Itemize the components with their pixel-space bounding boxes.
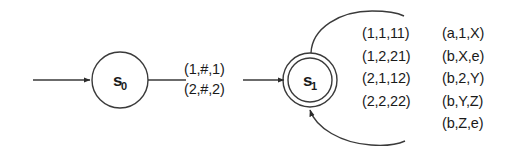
- self-loop-right-line: (b,Y,Z): [442, 90, 522, 113]
- state-label-s0-subscript: 0: [121, 80, 127, 92]
- transition-label: (1,#,1) (2,#,2): [184, 59, 225, 99]
- self-loop-label-block: (1,1,11) (1,2,21) (2,1,12) (2,2,22) (a,1…: [362, 22, 522, 135]
- self-loop-left-line: (1,1,11): [362, 22, 442, 45]
- self-loop-right-line: (b,Z,e): [442, 112, 522, 135]
- self-loop-left-line: (2,1,12): [362, 67, 442, 90]
- self-loop-right-line: (b,X,e): [442, 45, 522, 68]
- self-loop-right-line: (b,2,Y): [442, 67, 522, 90]
- state-label-s1-subscript: 1: [311, 80, 317, 92]
- self-loop-right-column: (a,1,X) (b,X,e) (b,2,Y) (b,Y,Z) (b,Z,e): [442, 22, 522, 135]
- self-loop-left-column: (1,1,11) (1,2,21) (2,1,12) (2,2,22): [362, 22, 442, 135]
- transition-label-line-2: (2,#,2): [184, 79, 225, 99]
- diagram-canvas: s 0 s 1 (1,#,1) (2,#,2) (1,1,11) (1,2,21…: [0, 0, 525, 159]
- transition-label-line-1: (1,#,1): [184, 59, 225, 79]
- self-loop-left-line: (1,2,21): [362, 45, 442, 68]
- self-loop-right-line: (a,1,X): [442, 22, 522, 45]
- self-loop-left-line: (2,2,22): [362, 90, 442, 113]
